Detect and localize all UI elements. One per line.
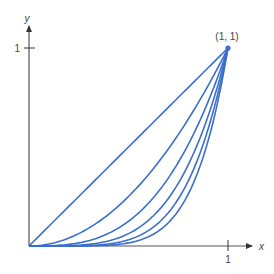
y-tick-label: 1 [14,43,20,54]
power-curves-diagram: y x 1 1 (1, 1) [0,0,274,274]
point-label: (1, 1) [215,31,238,42]
y-axis-label: y [24,13,31,24]
curves-group [29,48,228,246]
x-tick-label: 1 [225,254,231,265]
curve-x-power-1 [29,48,228,246]
x-axis-label: x [258,241,265,252]
endpoint-marker [225,45,230,50]
